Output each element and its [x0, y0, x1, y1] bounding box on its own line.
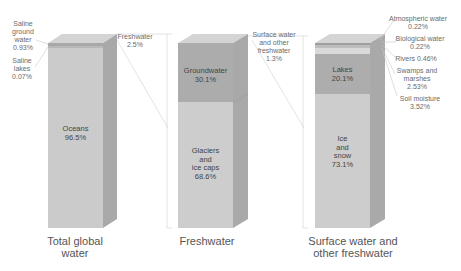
label-text: ground [6, 28, 40, 36]
label-text: Soil moisture [396, 95, 444, 103]
label-surface-water-share: Surface water and other freshwater 1.3% [246, 31, 302, 63]
label-freshwater-share: Freshwater 2.5% [114, 33, 156, 49]
category-text: Total global [30, 235, 120, 247]
category-text: other freshwater [305, 247, 401, 259]
label-text: freshwater [246, 47, 302, 55]
label-value: 1.3% [246, 55, 302, 63]
label-rivers: Rivers 0.46% [395, 55, 437, 63]
label-text: water [6, 36, 40, 44]
label-value: 3.52% [396, 103, 444, 111]
label-soil-moisture: Soil moisture 3.52% [396, 95, 444, 111]
bar-surface-water [315, 34, 385, 228]
label-text: and other [246, 39, 302, 47]
label-value: 30.1% [178, 76, 233, 85]
label-value: 20.1% [315, 75, 370, 84]
label-value: 0.22% [390, 43, 450, 51]
label-value: 0.07% [6, 73, 38, 81]
label-saline-ground-water: Saline ground water 0.93% [6, 20, 40, 52]
label-value: 73.1% [315, 161, 370, 170]
label-value: 0.22% [384, 23, 452, 31]
label-saline-lakes: Saline lakes 0.07% [6, 57, 38, 81]
category-freshwater: Freshwater [165, 235, 249, 247]
label-lakes: Lakes 20.1% [315, 66, 370, 83]
label-text: Rivers 0.46% [395, 55, 437, 63]
label-biological-water: Biological water 0.22% [390, 35, 450, 51]
label-text: lakes [6, 65, 38, 73]
label-groundwater: Groundwater 30.1% [178, 67, 233, 84]
label-value: 96.5% [48, 134, 103, 143]
label-atmospheric-water: Atmospheric water 0.22% [384, 15, 452, 31]
label-swamps-marshes: Swamps and marshes 2.53% [395, 67, 439, 91]
bar-freshwater [178, 34, 248, 228]
label-text: Atmospheric water [384, 15, 452, 23]
label-value: 2.53% [395, 83, 439, 91]
label-text: Swamps and [395, 67, 439, 75]
label-ice-and-snow: Ice and snow 73.1% [315, 135, 370, 169]
label-value: 2.5% [114, 41, 156, 49]
label-glaciers: Glaciers and ice caps 68.6% [178, 147, 233, 181]
label-oceans: Oceans 96.5% [48, 125, 103, 142]
label-value: 68.6% [178, 173, 233, 182]
label-text: Saline [6, 57, 38, 65]
label-value: 0.93% [6, 44, 40, 52]
category-text: water [30, 247, 120, 259]
category-text: Freshwater [165, 235, 249, 247]
label-text: Freshwater [114, 33, 156, 41]
label-text: Biological water [390, 35, 450, 43]
label-text: Saline [6, 20, 40, 28]
category-surface-water: Surface water and other freshwater [305, 235, 401, 259]
label-text: marshes [395, 75, 439, 83]
label-text: Surface water [246, 31, 302, 39]
category-text: Surface water and [305, 235, 401, 247]
category-total-global-water: Total global water [30, 235, 120, 259]
